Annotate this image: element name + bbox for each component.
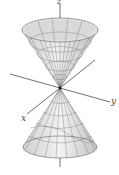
upper-cone [22,18,98,88]
z-axis-label: z [57,0,61,6]
x-axis-label: x [21,114,26,123]
double-cone-diagram [0,0,119,175]
y-axis-label: y [111,97,116,106]
lower-cone [23,88,97,158]
origin-vertex [59,87,62,90]
